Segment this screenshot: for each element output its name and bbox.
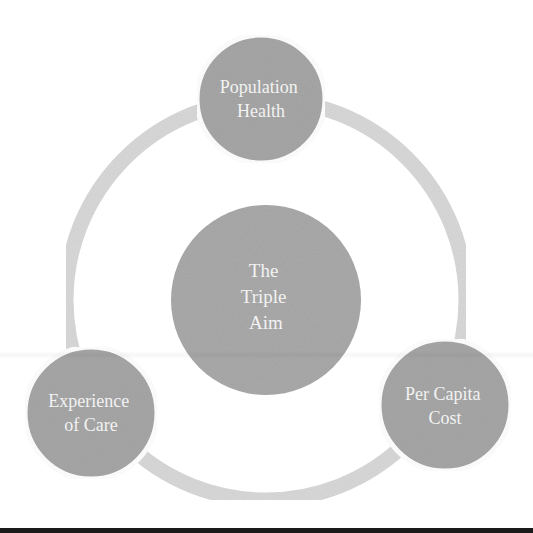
population-health-line-2: Health (237, 101, 285, 121)
experience-of-care-circle (25, 347, 157, 479)
center-node: The Triple Aim (171, 205, 361, 395)
triple-aim-diagram: The Triple Aim Population Health Experie… (0, 0, 533, 533)
population-health-line-1: Population (220, 77, 298, 97)
node-experience-of-care: Experience of Care (25, 347, 157, 479)
bottom-border-bar (0, 528, 533, 533)
center-label-line-3: Aim (249, 312, 283, 333)
experience-of-care-line-1: Experience (48, 391, 129, 411)
center-label-line-2: Triple (241, 286, 287, 307)
population-health-circle (197, 35, 325, 163)
center-label-line-1: The (249, 260, 279, 281)
experience-of-care-line-2: of Care (64, 415, 117, 435)
scan-artifact-band (0, 351, 533, 359)
per-capita-cost-line-1: Per Capita (405, 384, 480, 404)
diagram-svg: The Triple Aim Population Health Experie… (0, 0, 533, 533)
node-population-health: Population Health (197, 35, 325, 163)
per-capita-cost-line-2: Cost (428, 408, 461, 428)
